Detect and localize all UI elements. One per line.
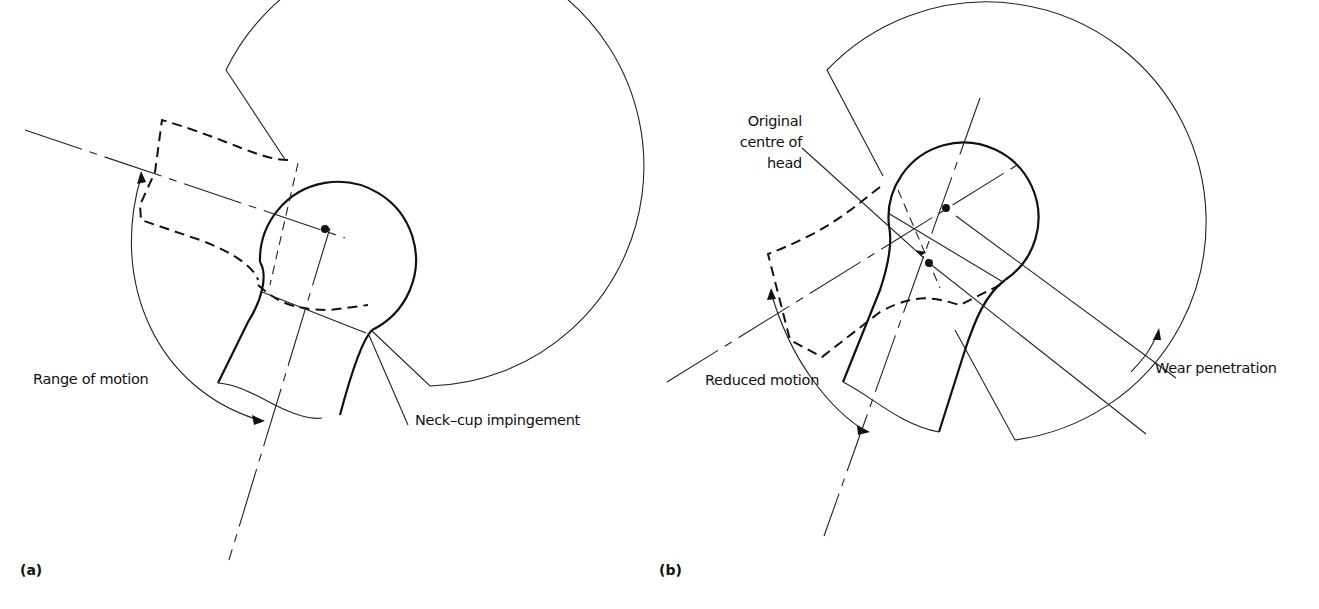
axis-line-b-2 xyxy=(888,213,1003,282)
neck-bottom-a xyxy=(218,383,322,418)
neck-a xyxy=(218,262,264,383)
neck-b-left xyxy=(843,226,890,382)
cup-outline-a xyxy=(226,0,644,386)
diagram-canvas xyxy=(0,0,1319,609)
head-centre-dot-b xyxy=(942,204,950,212)
arrowhead-bottom-a xyxy=(252,415,265,425)
label-reduced-motion: Reduced motion xyxy=(705,372,819,388)
label-original-centre-line3: head xyxy=(712,155,802,171)
arrowhead-top-a xyxy=(137,171,146,184)
panel-tag-b: (b) xyxy=(659,562,682,578)
label-wear-penetration: Wear penetration xyxy=(1155,360,1277,376)
cup-outline-b xyxy=(827,2,1206,440)
panel-tag-a: (a) xyxy=(20,562,42,578)
axis-line-a-2 xyxy=(262,292,366,333)
label-original-centre-line1: Original xyxy=(712,113,802,129)
label-original-centre-line2: centre of xyxy=(712,134,802,150)
head-centre-dot-a xyxy=(321,225,329,233)
dashed-neck-position-b xyxy=(768,187,1000,357)
axis-line-b-1 xyxy=(667,162,1022,382)
wear-penetration-arc xyxy=(1131,332,1158,372)
neck-axis-dashed-a xyxy=(270,163,298,285)
panel-a-drawing xyxy=(25,0,644,560)
neck-axis-b xyxy=(824,98,980,536)
reduced-motion-arc xyxy=(771,292,867,432)
label-neck-cup-impingement: Neck–cup impingement xyxy=(415,412,580,428)
neck-b-bottom xyxy=(843,382,939,432)
panel-b-drawing xyxy=(667,2,1206,536)
neck-right-a xyxy=(340,330,372,415)
hip-prosthesis-figure: Range of motion Neck–cup impingement (a)… xyxy=(0,0,1319,609)
wear-line-2 xyxy=(929,263,1146,434)
label-range-of-motion: Range of motion xyxy=(33,371,148,387)
range-of-motion-arc xyxy=(131,177,262,421)
femoral-head-a xyxy=(260,182,416,330)
neck-axis-a xyxy=(229,228,330,560)
axis-line-a-1 xyxy=(25,130,345,238)
femoral-head-b xyxy=(889,143,1039,280)
dashed-neck-position-a xyxy=(140,120,288,280)
neck-axis-dashed-b xyxy=(898,190,940,288)
original-centre-leader xyxy=(802,148,924,258)
arrowhead-top-b xyxy=(767,288,776,300)
arrowhead-wear xyxy=(1153,328,1161,340)
